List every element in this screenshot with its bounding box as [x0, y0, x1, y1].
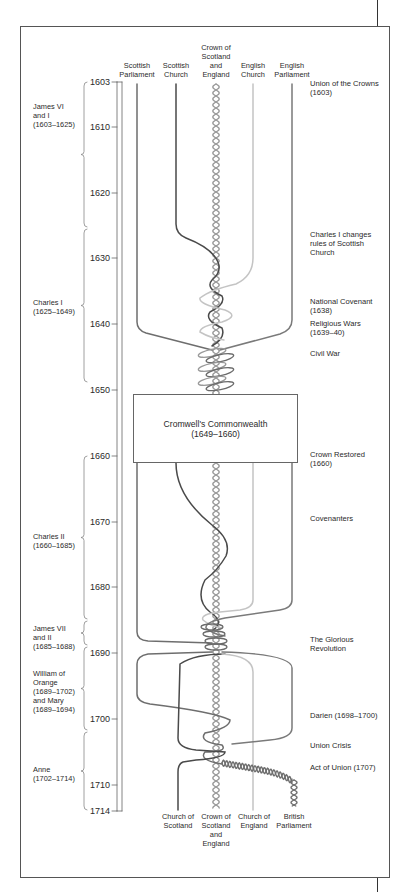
column-footer-british-parliament-line: Parliament [276, 821, 311, 830]
year-tick-label: 1650 [80, 385, 110, 395]
column-footer-crown-bottom-line: Scotland [201, 821, 231, 830]
event-label-line: (1638) [310, 306, 372, 315]
year-tick-label: 1660 [80, 451, 110, 461]
scottish-church-line-2 [176, 463, 227, 630]
year-tick-label: 1690 [80, 648, 110, 658]
event-label: Religious Wars(1639–40) [310, 319, 361, 337]
event-label: Darien (1698–1700) [310, 711, 378, 720]
event-label-line: The Glorious [310, 635, 353, 644]
column-footer-church-of-scotland: Church ofScotland [162, 812, 194, 830]
reign-label-line: James VII [33, 624, 75, 633]
column-header-scottish-parliament-line: Parliament [119, 70, 154, 79]
reign-label-line: James VI [33, 102, 75, 111]
column-footer-british-parliament: BritishParliament [276, 812, 311, 830]
column-header-scottish-parliament-line: Scottish [119, 61, 154, 70]
event-label-line: Civil War [310, 349, 340, 358]
scottish-parliament-line-2 [137, 463, 212, 643]
reign-label-line: (1689–1702) [33, 687, 75, 696]
reign-brace [81, 82, 87, 227]
column-header-crown-line: Crown of [201, 43, 231, 52]
event-label: Civil War [310, 349, 340, 358]
column-header-english-parliament-line: English [274, 61, 309, 70]
column-header-english-parliament-line: Parliament [274, 70, 309, 79]
column-header-crown-line: and [201, 61, 231, 70]
event-label: Charles I changesrules of ScottishChurch [310, 230, 371, 258]
column-header-english-parliament: EnglishParliament [274, 61, 309, 79]
year-tick-label: 1700 [80, 714, 110, 724]
english-parliament-line-1 [220, 84, 292, 350]
event-label-line: Crown Restored [310, 450, 365, 459]
reign-label-line: and II [33, 633, 75, 642]
year-tick-label: 1670 [80, 517, 110, 527]
reign-label-line: (1685–1688) [33, 642, 75, 651]
year-tick-label: 1620 [80, 188, 110, 198]
event-label-line: Union Crisis [310, 741, 351, 750]
reign-label-line: Orange [33, 678, 75, 687]
year-tick-label: 1714 [80, 806, 110, 816]
column-header-english-church: EnglishChurch [241, 61, 265, 79]
year-tick-label: 1603 [80, 77, 110, 87]
column-footer-church-of-scotland-line: Scotland [162, 821, 194, 830]
reign-label: Charles I(1625–1649) [33, 298, 75, 316]
column-header-scottish-church-line: Church [163, 70, 189, 79]
event-label-line: Union of the Crowns [310, 79, 379, 88]
column-header-scottish-church: ScottishChurch [163, 61, 189, 79]
column-header-english-church-line: Church [241, 70, 265, 79]
reign-label-line: Charles I [33, 298, 75, 307]
reign-label-line: (1625–1649) [33, 307, 75, 316]
year-tick-label: 1640 [80, 319, 110, 329]
column-header-scottish-church-line: Scottish [163, 61, 189, 70]
event-label-line: Act of Union (1707) [310, 763, 375, 772]
reign-label-line: (1689–1694) [33, 705, 75, 714]
scottish-parliament-line-1 [137, 84, 212, 350]
column-footer-church-of-england: Church ofEngland [238, 812, 270, 830]
column-footer-crown-bottom: Crown ofScotlandandEngland [201, 812, 231, 848]
reign-label: Anne(1702–1714) [33, 765, 75, 783]
year-tick-label: 1630 [80, 253, 110, 263]
event-label-line: Religious Wars [310, 319, 361, 328]
reign-brace [81, 732, 87, 810]
event-label-line: Church [310, 248, 371, 257]
event-label: Union of the Crowns(1603) [310, 79, 379, 97]
year-tick-label: 1680 [80, 582, 110, 592]
event-label: Covenanters [310, 514, 353, 523]
reign-label-line: (1702–1714) [33, 774, 75, 783]
reign-label-line: William of [33, 669, 75, 678]
event-label-line: Revolution [310, 644, 353, 653]
reign-label-line: and I [33, 111, 75, 120]
reign-label-line: Charles II [33, 532, 75, 541]
column-header-english-church-line: English [241, 61, 265, 70]
event-label: The GloriousRevolution [310, 635, 353, 653]
column-footer-church-of-england-line: England [238, 821, 270, 830]
column-footer-crown-bottom-line: and [201, 830, 231, 839]
year-tick-label: 1610 [80, 122, 110, 132]
event-label-line: (1660) [310, 459, 365, 468]
event-label-line: Darien (1698–1700) [310, 711, 378, 720]
event-label: Union Crisis [310, 741, 351, 750]
reign-label: James VIIand II(1685–1688) [33, 624, 75, 651]
reign-label: James VIand I(1603–1625) [33, 102, 75, 129]
reign-label-line: (1603–1625) [33, 120, 75, 129]
column-footer-church-of-england-line: Church of [238, 812, 270, 821]
event-label: Act of Union (1707) [310, 763, 375, 772]
column-header-crown-line: England [201, 70, 231, 79]
column-footer-crown-bottom-line: Crown of [201, 812, 231, 821]
reign-label-line: Anne [33, 765, 75, 774]
event-label-line: (1639–40) [310, 328, 361, 337]
reign-label-line: (1660–1685) [33, 541, 75, 550]
reign-brace [81, 229, 87, 382]
year-tick-label: 1710 [80, 780, 110, 790]
column-footer-british-parliament-line: British [276, 812, 311, 821]
event-label-line: Covenanters [310, 514, 353, 523]
reign-label-line: and Mary [33, 696, 75, 705]
reign-label: William ofOrange(1689–1702)and Mary(1689… [33, 669, 75, 714]
commonwealth-box: Cromwell's Commonwealth (1649–1660) [133, 394, 298, 463]
event-label-line: Charles I changes [310, 230, 371, 239]
column-header-crown-line: Scotland [201, 52, 231, 61]
event-label: Crown Restored(1660) [310, 450, 365, 468]
column-footer-crown-bottom-line: England [201, 839, 231, 848]
event-label-line: National Covenant [310, 297, 372, 306]
commonwealth-title: Cromwell's Commonwealth [164, 419, 268, 429]
column-header-scottish-parliament: ScottishParliament [119, 61, 154, 79]
reign-brace [81, 456, 87, 619]
